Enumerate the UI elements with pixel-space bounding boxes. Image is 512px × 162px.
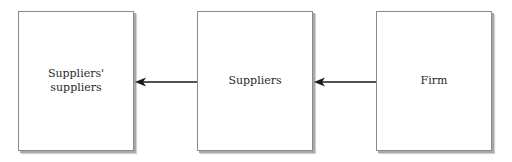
node-firm: Firm [376,11,492,151]
arrow-left-icon [134,76,198,88]
node-label: Firm [421,74,448,88]
node-label: Suppliers [228,74,281,88]
arrow-left-icon [313,76,377,88]
arrow-suppliers-to-suppliers-suppliers [134,76,198,88]
node-label: Suppliers' suppliers [48,67,104,95]
arrow-firm-to-suppliers [313,76,377,88]
node-suppliers-suppliers: Suppliers' suppliers [18,11,134,151]
node-suppliers: Suppliers [197,11,313,151]
